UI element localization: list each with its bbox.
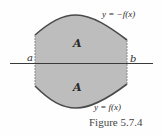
endpoint-label-b: b xyxy=(130,54,136,64)
figure-5-7-4: A A a b y = −f(x) y = f(x) Figure 5.7.4 xyxy=(0,0,162,137)
region-label-lower: A xyxy=(73,82,82,93)
endpoint-label-a: a xyxy=(27,53,33,63)
figure-caption: Figure 5.7.4 xyxy=(89,117,142,128)
lower-curve-label: y = f(x) xyxy=(94,103,121,112)
region-label-upper: A xyxy=(73,38,82,49)
upper-curve-label: y = −f(x) xyxy=(102,10,135,19)
